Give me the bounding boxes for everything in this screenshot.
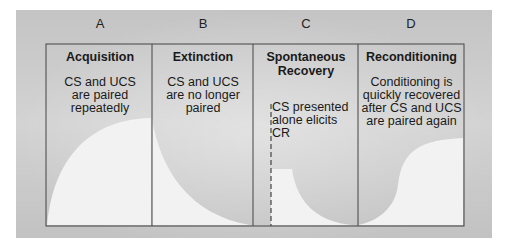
column-letter-c: C — [256, 16, 356, 31]
column-letter-b: B — [153, 16, 253, 31]
description-line: alone elicits CR — [268, 114, 358, 140]
description-line: are paired again — [359, 115, 464, 128]
reconditioning-curve — [358, 138, 463, 225]
column-title: Reconditioning — [359, 50, 464, 64]
column-extinction: Extinction CS and UCS are no longer pair… — [153, 50, 253, 115]
column-description-c: CS presented alone elicits CR — [268, 101, 358, 140]
column-title: Extinction — [153, 50, 253, 64]
column-letter-d: D — [361, 16, 461, 31]
column-title: Spontaneous Recovery — [254, 50, 358, 78]
extinction-curve — [152, 118, 250, 225]
column-acquisition: Acquisition CS and UCS are paired repeat… — [48, 50, 152, 115]
spontaneous-recovery-curve — [271, 169, 352, 225]
acquisition-curve — [47, 118, 151, 225]
description-line: repeatedly — [48, 102, 152, 115]
column-description: CS and UCS are no longer paired — [153, 76, 253, 115]
column-reconditioning: Reconditioning Conditioning is quickly r… — [359, 50, 464, 128]
title-line: Spontaneous — [254, 50, 358, 64]
description-line: paired — [153, 102, 253, 115]
title-line: Recovery — [254, 64, 358, 78]
column-title: Acquisition — [48, 50, 152, 64]
column-description: Conditioning is quickly recovered after … — [359, 76, 464, 128]
column-letter-a: A — [50, 16, 150, 31]
column-description: CS and UCS are paired repeatedly — [48, 76, 152, 115]
column-spontaneous-recovery: Spontaneous Recovery — [254, 50, 358, 78]
